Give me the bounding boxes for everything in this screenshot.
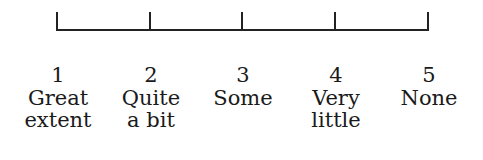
scale-point-2: 2 Quite a bit (105, 64, 197, 132)
scale-number: 5 (383, 64, 475, 87)
scale-number: 2 (105, 64, 197, 87)
scale-number: 4 (290, 64, 382, 87)
scale-label-line2: a bit (105, 109, 197, 132)
scale-tick-3 (241, 12, 243, 31)
scale-axis-line (57, 29, 428, 31)
scale-label-line1: Quite (105, 87, 197, 110)
scale-label-line1: Some (197, 87, 289, 110)
scale-label-line1: Very (290, 87, 382, 110)
scale-point-3: 3 Some (197, 64, 289, 109)
scale-label-line1: None (383, 87, 475, 110)
scale-tick-1 (56, 12, 58, 31)
scale-tick-5 (427, 12, 429, 31)
scale-label-line2: extent (12, 109, 104, 132)
scale-label-line1: Great (12, 87, 104, 110)
scale-point-4: 4 Very little (290, 64, 382, 132)
scale-point-5: 5 None (383, 64, 475, 109)
scale-tick-4 (334, 12, 336, 31)
scale-label-line2: little (290, 109, 382, 132)
scale-number: 1 (12, 64, 104, 87)
scale-point-1: 1 Great extent (12, 64, 104, 132)
scale-tick-2 (149, 12, 151, 31)
scale-number: 3 (197, 64, 289, 87)
